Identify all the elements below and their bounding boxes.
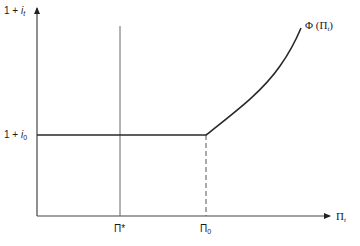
x-tick-label-pi-zero: Π0 xyxy=(200,223,211,235)
x-axis-label: Πt xyxy=(336,210,347,224)
diagram-canvas: 1 + it 1 + i0 Π* Π0 Πt Φ (Πt) xyxy=(0,0,360,246)
x-tick-label-pi-star: Π* xyxy=(114,223,125,234)
y-tick-label-i0: 1 + i0 xyxy=(4,129,27,141)
y-axis-label: 1 + it xyxy=(4,5,26,17)
phi-curve xyxy=(37,28,301,135)
curve-label-phi: Φ (Πt) xyxy=(305,19,333,33)
